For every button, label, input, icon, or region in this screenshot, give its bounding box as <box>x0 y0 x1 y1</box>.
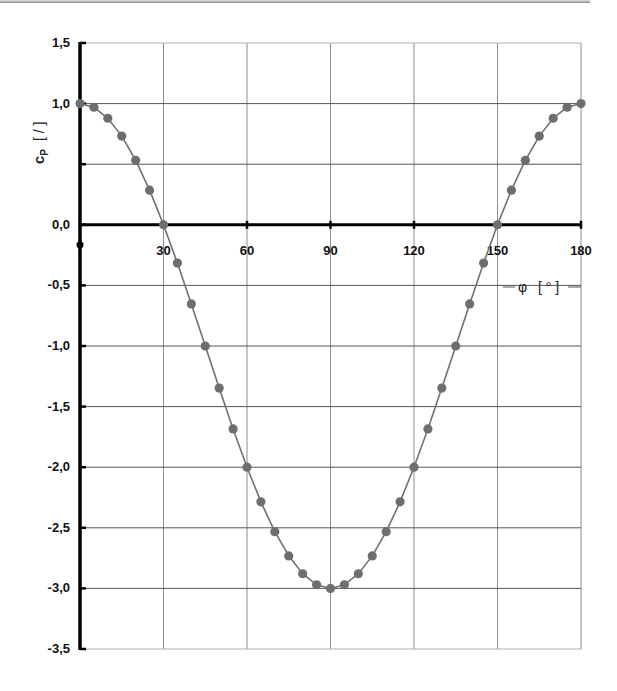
data-point <box>479 258 488 267</box>
data-point <box>576 99 585 108</box>
cp-vs-phi-chart: 1,51,00,0-0,5-1,0-1,5-2,0-2,5-3,0-3,5 30… <box>0 0 617 691</box>
svg-text:cP[ / ]: cP[ / ] <box>30 122 50 164</box>
data-point <box>270 527 279 536</box>
data-point <box>215 383 224 392</box>
data-point <box>521 156 530 165</box>
x-tick-label: 180 <box>570 243 592 258</box>
data-point <box>493 220 502 229</box>
x-tick-label: 120 <box>403 243 425 258</box>
y-axis-title: cP[ / ] <box>30 122 50 164</box>
y-axis-unit: [ / ] <box>31 122 47 141</box>
grid-lines <box>80 43 581 649</box>
x-tick-label: 30 <box>156 243 170 258</box>
y-axis-symbol: c <box>30 156 47 164</box>
data-point <box>465 299 474 308</box>
data-point <box>284 551 293 560</box>
data-point <box>187 299 196 308</box>
data-point <box>103 114 112 123</box>
data-point <box>368 551 377 560</box>
y-axis-subscript: P <box>39 149 50 156</box>
data-point <box>549 114 558 123</box>
y-tick-label: -3,0 <box>48 580 70 595</box>
y-tick-label: 1,5 <box>52 35 70 50</box>
data-point <box>340 580 349 589</box>
data-point <box>423 424 432 433</box>
x-tick-labels: 306090120150180 <box>156 243 592 258</box>
origin-marker <box>77 241 84 248</box>
y-tick-label: 0,0 <box>52 217 70 232</box>
data-point <box>201 341 210 350</box>
y-tick-label: -2,0 <box>48 459 70 474</box>
data-point <box>298 569 307 578</box>
data-point <box>409 463 418 472</box>
data-point <box>354 569 363 578</box>
data-point <box>131 156 140 165</box>
x-tick-label: 60 <box>240 243 254 258</box>
data-point <box>507 186 516 195</box>
data-point <box>117 131 126 140</box>
data-point <box>145 186 154 195</box>
data-point <box>312 580 321 589</box>
y-tick-label: 1,0 <box>52 96 70 111</box>
y-tick-label: -1,5 <box>48 399 70 414</box>
data-point <box>395 497 404 506</box>
data-point <box>326 584 335 593</box>
data-point <box>382 527 391 536</box>
y-tick-labels: 1,51,00,0-0,5-1,0-1,5-2,0-2,5-3,0-3,5 <box>48 35 70 656</box>
data-point <box>562 103 571 112</box>
data-point <box>437 383 446 392</box>
y-tick-label: -1,0 <box>48 338 70 353</box>
data-point <box>89 103 98 112</box>
y-tick-label: -3,5 <box>48 641 70 656</box>
x-axis-symbol: φ <box>518 279 527 295</box>
y-tick-label: -0,5 <box>48 277 70 292</box>
data-point <box>256 497 265 506</box>
y-tick-label: -2,5 <box>48 520 70 535</box>
x-tick-label: 90 <box>323 243 337 258</box>
data-point <box>228 424 237 433</box>
data-point <box>451 341 460 350</box>
x-axis-title: φ [ ° ] <box>503 279 581 295</box>
x-axis-unit: [ ° ] <box>538 279 559 295</box>
data-point <box>159 220 168 229</box>
data-point <box>173 258 182 267</box>
data-point <box>75 99 84 108</box>
data-point <box>535 131 544 140</box>
data-point <box>242 463 251 472</box>
